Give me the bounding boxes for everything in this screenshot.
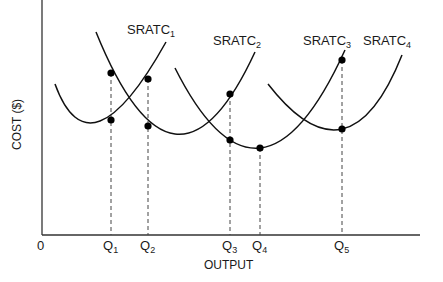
label-sratc4: SRATC4 bbox=[363, 33, 411, 50]
curve-sratc3 bbox=[175, 50, 345, 148]
origin-label: 0 bbox=[37, 238, 44, 253]
point-q4 bbox=[256, 144, 263, 151]
tick-q1: Q1 bbox=[103, 238, 118, 255]
label-sratc2: SRATC2 bbox=[213, 33, 261, 50]
y-axis-label: COST ($) bbox=[10, 99, 24, 150]
x-axis-label: OUTPUT bbox=[204, 258, 253, 272]
point-q1 bbox=[107, 69, 114, 76]
point-q2 bbox=[144, 75, 151, 82]
point-q1 bbox=[107, 116, 114, 123]
point-q3 bbox=[226, 136, 233, 143]
label-sratc3: SRATC3 bbox=[303, 33, 351, 50]
point-q3 bbox=[226, 90, 233, 97]
tick-q2: Q2 bbox=[140, 238, 155, 255]
point-q5 bbox=[338, 125, 345, 132]
tick-q5: Q5 bbox=[334, 238, 349, 255]
tick-q4: Q4 bbox=[252, 238, 267, 255]
point-q5 bbox=[338, 56, 345, 63]
point-q2 bbox=[144, 122, 151, 129]
dropdown-lines bbox=[111, 60, 342, 235]
label-sratc1: SRATC1 bbox=[127, 22, 175, 39]
tick-q3: Q3 bbox=[222, 238, 237, 255]
curve-sratc4 bbox=[268, 55, 402, 130]
